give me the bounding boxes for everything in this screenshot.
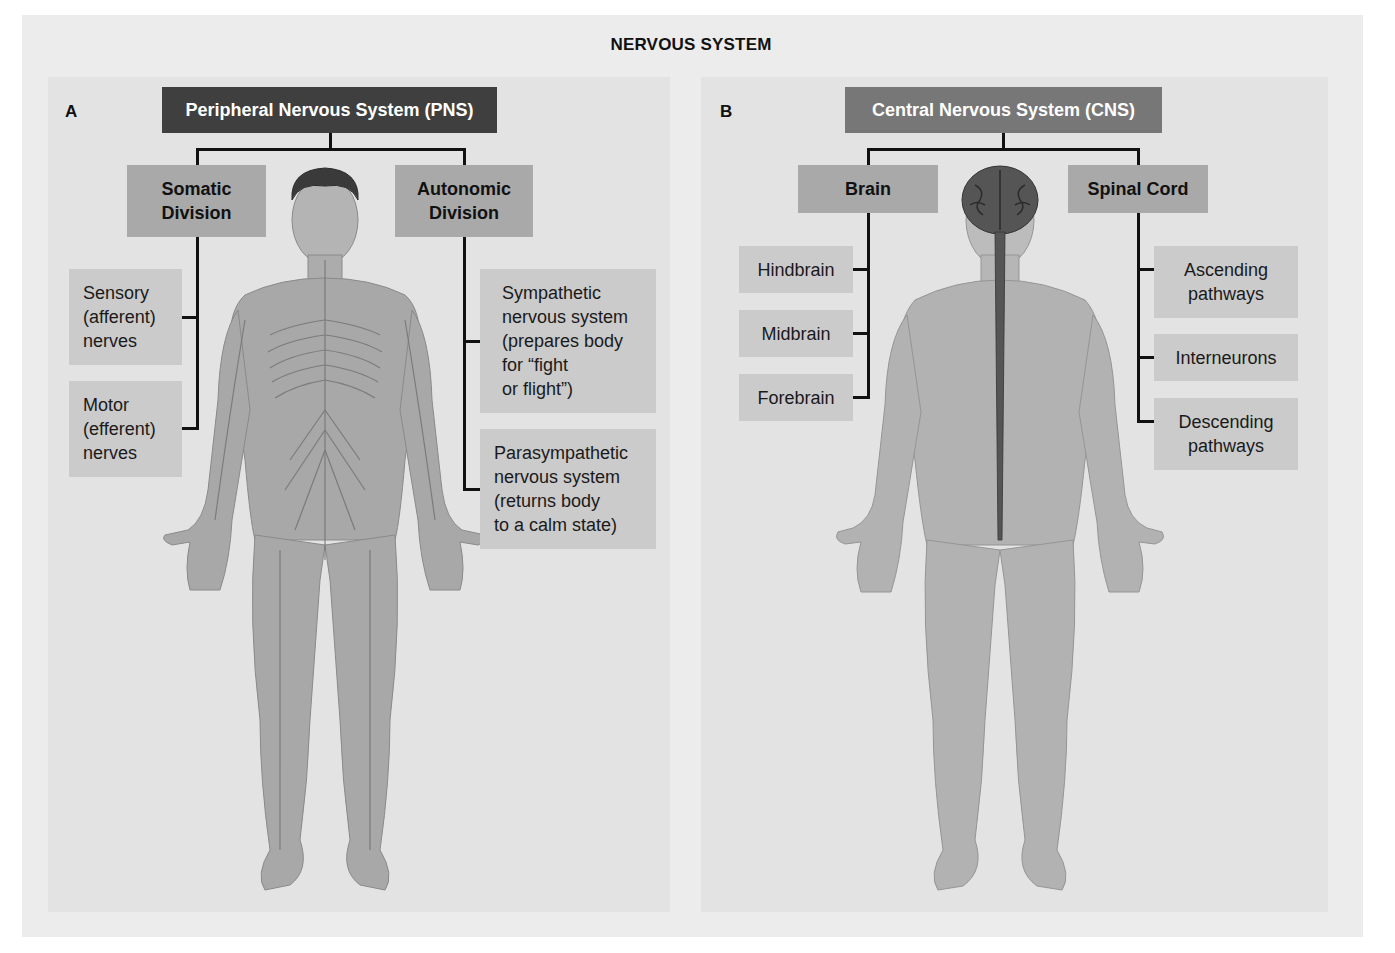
connector: [867, 148, 1140, 151]
connector: [182, 427, 199, 430]
connector: [1137, 148, 1140, 166]
hindbrain-box: Hindbrain: [739, 246, 853, 293]
pns-header: Peripheral Nervous System (PNS): [162, 87, 497, 133]
connector: [867, 148, 870, 166]
connector: [196, 148, 466, 151]
parasympathetic-nervous-system-box: Parasympathetic nervous system (returns …: [480, 429, 656, 549]
autonomic-division-box: Autonomic Division: [395, 165, 533, 237]
sensory-nerves-box: Sensory (afferent) nerves: [69, 269, 182, 365]
descending-pathways-box: Descending pathways: [1154, 398, 1298, 470]
panel-letter-b: B: [720, 102, 732, 122]
connector: [329, 133, 332, 149]
sympathetic-nervous-system-box: Sympathetic nervous system (prepares bod…: [480, 269, 656, 413]
connector: [196, 148, 199, 166]
connector: [1002, 133, 1005, 149]
connector: [853, 268, 870, 271]
brain-box: Brain: [798, 165, 938, 213]
motor-nerves-box: Motor (efferent) nerves: [69, 381, 182, 477]
connector: [1137, 268, 1154, 271]
connector: [463, 148, 466, 166]
diagram-title: NERVOUS SYSTEM: [0, 35, 1382, 55]
spinal-cord-box: Spinal Cord: [1068, 165, 1208, 213]
connector: [182, 316, 199, 319]
interneurons-box: Interneurons: [1154, 334, 1298, 381]
midbrain-box: Midbrain: [739, 310, 853, 357]
ascending-pathways-box: Ascending pathways: [1154, 246, 1298, 318]
connector: [463, 340, 481, 343]
connector: [853, 396, 870, 399]
panel-letter-a: A: [65, 102, 77, 122]
connector: [463, 237, 466, 491]
peripheral-nerves-body-figure: [160, 160, 490, 900]
forebrain-box: Forebrain: [739, 374, 853, 421]
connector: [196, 237, 199, 430]
cns-header: Central Nervous System (CNS): [845, 87, 1162, 133]
somatic-division-box: Somatic Division: [127, 165, 266, 237]
brain-spinal-cord-body-figure: [835, 160, 1165, 900]
connector: [853, 332, 870, 335]
connector: [867, 213, 870, 399]
connector: [1137, 356, 1154, 359]
connector: [463, 488, 481, 491]
connector: [1137, 420, 1154, 423]
connector: [1137, 213, 1140, 423]
